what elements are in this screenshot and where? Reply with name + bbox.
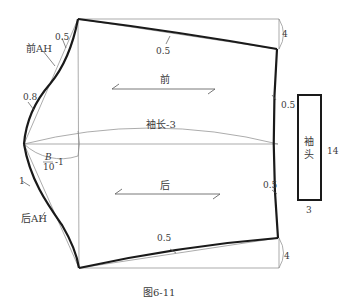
front-top-offset-label: 0.5: [55, 32, 70, 42]
b-numerator: B: [44, 152, 52, 162]
front-label: 前: [160, 73, 170, 85]
front-hem-curve-label: 0.5: [156, 46, 171, 56]
back-right-curve-label: 0.5: [263, 180, 278, 190]
front-right-drop-label: 4: [282, 29, 288, 39]
cuff-label-2: 头: [304, 149, 314, 160]
front-ah-curve-label: 0.8: [23, 92, 38, 102]
cuff-length-label: 14: [327, 146, 339, 156]
figure-caption: 图6-11: [143, 287, 175, 298]
cuff-width-label: 3: [306, 205, 312, 215]
b-denominator: 10: [43, 162, 55, 172]
cuff-piece: [298, 95, 321, 200]
sleeve-length-label: 袖长-3: [146, 118, 176, 130]
front-right-curve-label: 0.5: [281, 100, 296, 110]
cuff-label-1: 袖: [304, 135, 314, 147]
back-ah-curve-label: 1: [19, 176, 25, 186]
back-ah-label: 后AH: [21, 213, 47, 224]
b-minus-label: -1: [55, 157, 64, 167]
back-label: 后: [160, 180, 170, 191]
sleeve-pattern-diagram: 前AH 0.5 0.5 4 0.5 0.8 前 袖长-3 B 10 -1 1 后…: [0, 0, 356, 301]
guide-lines: [24, 19, 284, 268]
front-ah-label: 前AH: [26, 42, 52, 54]
back-right-drop-label: 4: [284, 251, 290, 261]
back-hem-curve-label: 0.5: [157, 233, 172, 243]
